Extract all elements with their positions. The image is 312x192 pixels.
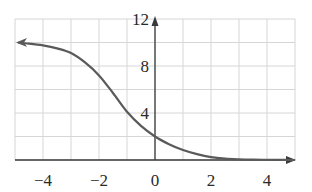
x-tick-labels: −4−2024: [34, 171, 272, 190]
y-tick-label: 12: [132, 10, 149, 29]
logistic-curve-chart: −4−2024 4812: [0, 0, 312, 192]
x-tick-label: 2: [207, 171, 216, 190]
x-tick-label: −4: [34, 171, 53, 190]
y-tick-label: 8: [141, 57, 150, 76]
x-tick-label: −2: [90, 171, 108, 190]
x-tick-label: 0: [151, 171, 160, 190]
y-tick-label: 4: [141, 104, 150, 123]
x-tick-label: 4: [263, 171, 272, 190]
y-axis-arrow-icon: [152, 16, 159, 26]
data-series-curve: [19, 43, 295, 161]
